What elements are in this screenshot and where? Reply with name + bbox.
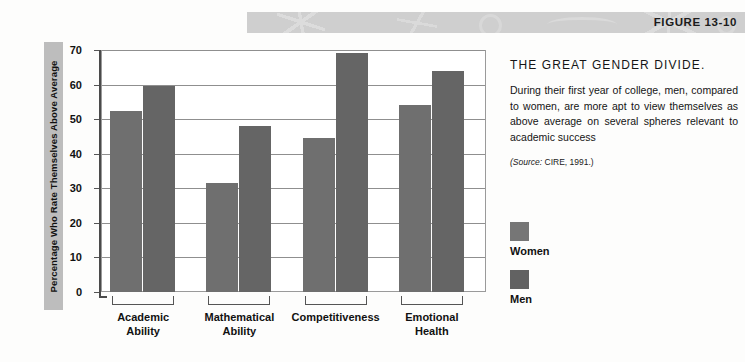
bar-men-0 (143, 86, 175, 292)
legend-item-women: Women (510, 222, 630, 257)
sidebar-source: (Source: CIRE, 1991.) (510, 157, 738, 167)
swoosh-icon (547, 17, 617, 32)
category-bracket (112, 296, 174, 305)
legend-item-men: Men (510, 270, 630, 305)
bar-women-1 (206, 183, 238, 292)
starburst-icon (277, 12, 325, 33)
y-tick-label: 20 (60, 217, 82, 229)
category-bracket (401, 296, 463, 305)
sidebar-title: THE GREAT GENDER DIVIDE. (510, 58, 738, 72)
bar-men-2 (336, 53, 368, 292)
category-bracket (208, 296, 270, 305)
y-tick-label: 0 (60, 286, 82, 298)
y-tick-label: 10 (60, 251, 82, 263)
y-axis-label-text: Percentage Who Rate Themselves Above Ave… (48, 60, 59, 292)
figure-page: FIGURE 13-10 Percentage Who Rate Themsel… (0, 0, 745, 362)
bar-women-3 (399, 105, 431, 292)
ring-icon (479, 14, 502, 33)
y-tick-label: 30 (60, 182, 82, 194)
category-label-line: Ability (179, 324, 299, 338)
legend-swatch-men (510, 270, 529, 289)
bar-men-1 (239, 126, 271, 292)
chart-legend: WomenMen (510, 222, 630, 318)
sidebar-text: THE GREAT GENDER DIVIDE. During their fi… (510, 58, 738, 167)
category-label-line: Emotional (372, 310, 492, 324)
source-text: CIRE, 1991.) (542, 157, 594, 167)
category-bracket (305, 296, 367, 305)
bar-women-2 (303, 138, 335, 292)
source-prefix: (Source: (510, 157, 542, 167)
y-tick-label: 40 (60, 148, 82, 160)
bar-women-0 (110, 111, 142, 293)
chart-area: Percentage Who Rate Themselves Above Ave… (0, 38, 505, 362)
category-label-3: EmotionalHealth (372, 310, 492, 338)
y-tick-label: 60 (60, 79, 82, 91)
figure-number-label: FIGURE 13-10 (654, 16, 737, 28)
category-label-line: Health (372, 324, 492, 338)
starburst-icon (397, 12, 437, 33)
legend-label: Women (510, 245, 630, 257)
y-tick-label: 70 (60, 44, 82, 56)
y-tick-label: 50 (60, 113, 82, 125)
legend-swatch-women (510, 222, 529, 241)
category-axis: AcademicAbilityMathematicalAbilityCompet… (101, 296, 486, 360)
legend-label: Men (510, 293, 630, 305)
bar-men-3 (432, 71, 464, 292)
bars-container (101, 50, 486, 292)
sidebar-body: During their first year of college, men,… (510, 83, 738, 145)
